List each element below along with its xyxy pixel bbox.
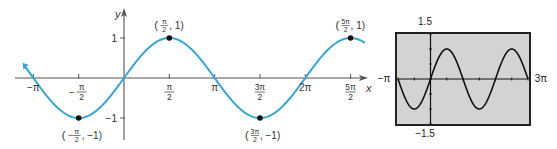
y-tick-label: 1 bbox=[111, 33, 117, 44]
svg-text:5π: 5π bbox=[341, 18, 350, 25]
x-axis-label: x bbox=[365, 82, 372, 94]
svg-text:2: 2 bbox=[167, 92, 172, 102]
y-min-label: −1.5 bbox=[415, 128, 435, 139]
key-point-label: (5π2, 1) bbox=[336, 18, 365, 33]
figure: xy−π−π2π2π3π22π5π21−1 (−π2, −1)(π2, 1)(3… bbox=[0, 0, 557, 149]
svg-text:5π: 5π bbox=[345, 82, 356, 92]
svg-text:3π: 3π bbox=[251, 128, 260, 135]
svg-text:(: ( bbox=[62, 129, 66, 141]
x-tick-label: 2π bbox=[299, 82, 312, 93]
y-max-label: 1.5 bbox=[418, 16, 432, 27]
svg-text:π: π bbox=[166, 82, 172, 92]
svg-text:2: 2 bbox=[258, 92, 263, 102]
svg-text:2: 2 bbox=[253, 136, 257, 143]
key-point-dot bbox=[348, 35, 354, 41]
svg-text:2: 2 bbox=[344, 26, 348, 33]
svg-text:π: π bbox=[162, 18, 167, 25]
svg-text:2: 2 bbox=[75, 136, 79, 143]
svg-text:(: ( bbox=[336, 19, 340, 31]
y-tick-label: −1 bbox=[106, 113, 118, 124]
svg-text:3π: 3π bbox=[255, 82, 266, 92]
x-tick-fraction-label: −π2 bbox=[69, 82, 87, 102]
key-point-label: (−π2, −1) bbox=[62, 128, 102, 143]
svg-text:, 1): , 1) bbox=[169, 20, 183, 31]
svg-text:−: − bbox=[69, 87, 75, 98]
svg-text:, −1): , −1) bbox=[82, 130, 102, 141]
svg-text:2: 2 bbox=[162, 26, 166, 33]
svg-text:π: π bbox=[74, 128, 79, 135]
axes bbox=[15, 8, 368, 140]
svg-text:(: ( bbox=[245, 129, 249, 141]
x-min-label: −π bbox=[378, 73, 391, 84]
key-point-label: (π2, 1) bbox=[154, 18, 183, 33]
key-point-dot bbox=[257, 115, 263, 121]
x-tick-fraction-label: 5π2 bbox=[345, 82, 356, 102]
x-tick-fraction-label: 3π2 bbox=[255, 82, 266, 102]
sine-graph: xy−π−π2π2π3π22π5π21−1 (−π2, −1)(π2, 1)(3… bbox=[0, 0, 375, 149]
key-point-label: (3π2, −1) bbox=[245, 128, 280, 143]
svg-text:, 1): , 1) bbox=[351, 20, 365, 31]
svg-text:−: − bbox=[68, 130, 73, 140]
x-tick-fraction-label: π2 bbox=[164, 82, 174, 102]
key-point-dot bbox=[76, 115, 82, 121]
calculator-screen: 1.5 −1.5 −π 3π bbox=[375, 0, 557, 149]
svg-text:2: 2 bbox=[79, 92, 84, 102]
svg-text:π: π bbox=[79, 82, 85, 92]
key-point-dot bbox=[167, 35, 173, 41]
x-tick-label: π bbox=[211, 82, 218, 93]
svg-text:(: ( bbox=[154, 19, 158, 31]
key-points: (−π2, −1)(π2, 1)(3π2, −1)(5π2, 1) bbox=[62, 18, 365, 143]
svg-text:2: 2 bbox=[348, 92, 353, 102]
svg-text:, −1): , −1) bbox=[260, 130, 280, 141]
tick-labels: xy−π−π2π2π3π22π5π21−1 bbox=[27, 8, 372, 124]
y-axis-label: y bbox=[114, 8, 122, 20]
x-max-label: 3π bbox=[535, 73, 548, 84]
x-tick-label: −π bbox=[27, 82, 40, 93]
